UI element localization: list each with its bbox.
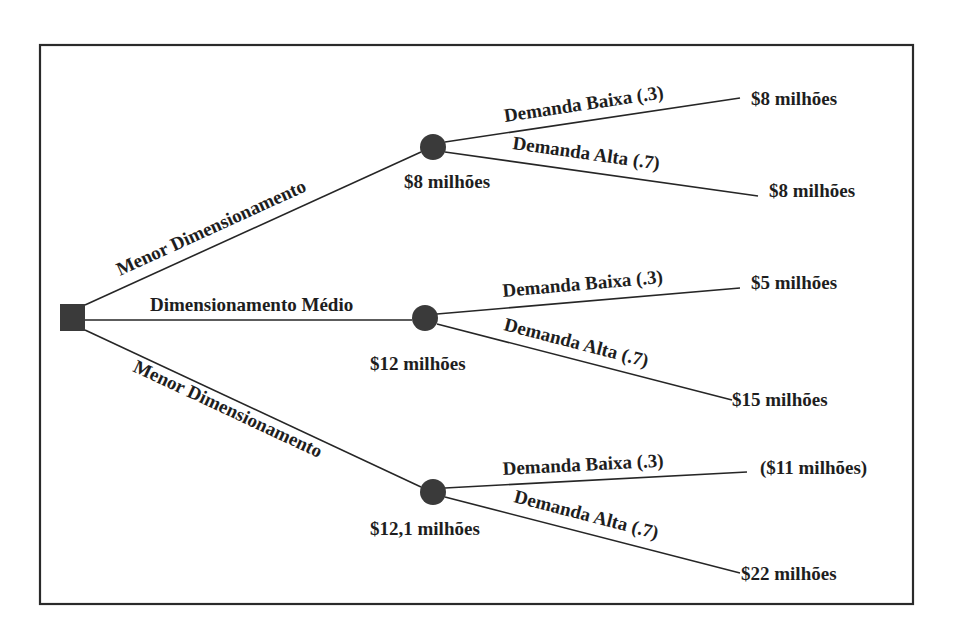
- chance-node-1: [420, 134, 446, 160]
- expected-value-2: $12 milhões: [370, 353, 466, 374]
- outcome-label-2-2: Demanda Alta (.7): [502, 314, 651, 372]
- expected-value-1: $8 milhões: [404, 171, 490, 192]
- payoff-1-1: $8 milhões: [751, 88, 837, 109]
- outcome-label-3-1: Demanda Baixa (.3): [502, 450, 664, 480]
- payoff-2-2: $15 milhões: [732, 389, 828, 410]
- branch-label-3: Menor Dimensionamento: [130, 356, 326, 462]
- decision-node-square: [60, 304, 85, 331]
- branch-label-2: Dimensionamento Médio: [150, 294, 353, 315]
- payoff-1-2: $8 milhões: [769, 180, 855, 201]
- outcome-label-1-2: Demanda Alta (.7): [511, 132, 661, 174]
- branch-label-1: Menor Dimensionamento: [113, 175, 309, 280]
- outcome-line-3-1: [445, 472, 747, 488]
- payoff-3-1: ($11 milhões): [760, 457, 867, 479]
- chance-node-2: [412, 305, 438, 331]
- outcome-label-3-2: Demanda Alta (.7): [512, 486, 661, 544]
- branch-line-1: [85, 152, 421, 305]
- expected-value-3: $12,1 milhões: [370, 518, 480, 539]
- decision-tree-diagram: Menor Dimensionamento Dimensionamento Mé…: [0, 0, 955, 638]
- outcome-label-1-1: Demanda Baixa (.3): [502, 81, 664, 127]
- payoff-3-2: $22 milhões: [741, 563, 837, 584]
- payoff-2-1: $5 milhões: [751, 272, 837, 293]
- chance-node-3: [420, 479, 446, 505]
